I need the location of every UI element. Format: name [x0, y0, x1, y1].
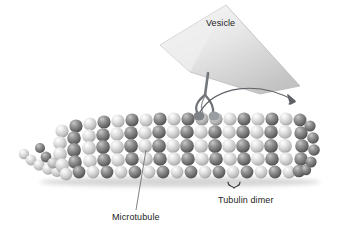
- tubulin-dimer-label: Tubulin dimer: [218, 195, 274, 206]
- microtubule-shadow: [40, 177, 320, 187]
- microtubule-body: [53, 112, 320, 180]
- microtubule-vesicle-diagram: Vesicle Microtubule Tubulin dimer: [0, 0, 348, 235]
- vesicle-label: Vesicle: [206, 18, 235, 29]
- microtubule-label: Microtubule: [112, 212, 160, 223]
- motion-arrow: [200, 88, 296, 112]
- microtubule: [19, 112, 320, 180]
- protofilament-column: [278, 112, 295, 178]
- diagram-canvas: [0, 0, 348, 235]
